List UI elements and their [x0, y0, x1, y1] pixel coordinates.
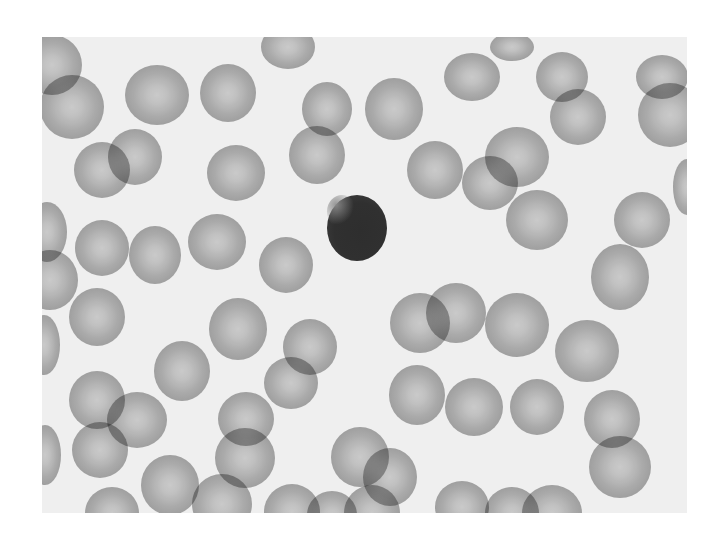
red-blood-cell [188, 214, 246, 270]
red-blood-cell [283, 319, 337, 375]
red-blood-cell [407, 141, 463, 199]
red-blood-cell [108, 129, 162, 185]
red-blood-cell [154, 341, 210, 401]
red-blood-cell [506, 190, 568, 250]
red-blood-cell [125, 65, 189, 125]
red-blood-cell [589, 436, 651, 498]
red-blood-cell [42, 315, 60, 375]
red-blood-cell [289, 126, 345, 184]
red-blood-cell [444, 53, 500, 101]
red-blood-cell [591, 244, 649, 310]
red-blood-cell [259, 237, 313, 293]
red-blood-cell [42, 75, 104, 139]
red-blood-cell [485, 293, 549, 357]
red-blood-cell [490, 37, 534, 61]
red-blood-cell [614, 192, 670, 248]
red-blood-cell [445, 378, 503, 436]
red-blood-cell [638, 83, 687, 147]
red-blood-cell [85, 487, 139, 513]
red-blood-cell [261, 37, 315, 69]
red-blood-cell [207, 145, 265, 201]
red-blood-cell [42, 425, 61, 485]
red-blood-cell [75, 220, 129, 276]
red-blood-cell [209, 298, 267, 360]
red-blood-cell [462, 156, 518, 210]
red-blood-cell [389, 365, 445, 425]
red-blood-cell [435, 481, 489, 513]
red-blood-cell [129, 226, 181, 284]
red-blood-cell [72, 422, 128, 478]
red-blood-cell [141, 455, 199, 513]
red-blood-cell [550, 89, 606, 145]
lymphocyte-cytoplasm-rim [327, 195, 357, 228]
red-blood-cell [555, 320, 619, 382]
red-blood-cell [673, 159, 687, 215]
red-blood-cell [365, 78, 423, 140]
red-blood-cell [510, 379, 564, 435]
red-blood-cell [69, 288, 125, 346]
red-blood-cell [426, 283, 486, 343]
blood-smear-micrograph [42, 37, 687, 513]
red-blood-cell [200, 64, 256, 122]
red-blood-cell [522, 485, 582, 513]
